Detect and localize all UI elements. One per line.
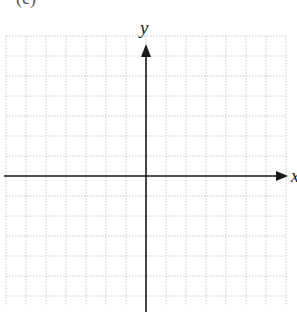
y-axis-label: y — [138, 17, 149, 38]
coordinate-plane: x y — [0, 0, 297, 315]
x-axis-label: x — [290, 166, 297, 186]
y-axis-arrow-icon — [141, 44, 151, 57]
y-axis — [141, 44, 151, 312]
